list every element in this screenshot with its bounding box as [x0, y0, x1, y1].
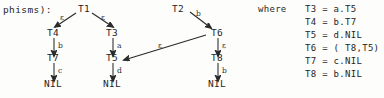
node-t4: T4: [47, 28, 59, 38]
edge-label-t1-t4: ε: [60, 14, 64, 22]
node-t8: T8: [211, 53, 223, 63]
node-t5: T5: [106, 53, 118, 63]
edge-label-t2-t6: b: [196, 10, 201, 18]
edge-label-t4-t7: b: [58, 42, 63, 50]
edge-t1-t4: [55, 13, 76, 27]
where-definition-t5: T5 = d.NIL: [305, 31, 362, 40]
node-nil-middle: NIL: [103, 79, 121, 89]
where-definition-t8: T8 = b.NIL: [305, 70, 362, 79]
where-definition-t7: T7 = c.NIL: [305, 57, 362, 66]
edge-label-t8-nil: b: [222, 67, 227, 75]
edge-label-t3-t5: a: [117, 42, 122, 50]
where-definition-t3: T3 = a.T5: [305, 5, 356, 14]
where-definition-t6: T6 = ( T8,T5): [305, 44, 379, 53]
node-nil-right: NIL: [208, 79, 226, 89]
edge-label-t5-nil: d: [117, 67, 122, 75]
figure-prefix-text: phisms):: [3, 5, 52, 15]
edge-label-t1-t3: ε: [101, 14, 105, 22]
edge-label-t6-t5: ε: [158, 42, 162, 50]
edge-t6-t5-epsilon: [124, 35, 206, 60]
node-t6: T6: [211, 28, 223, 38]
node-t3: T3: [106, 28, 118, 38]
node-t7: T7: [47, 53, 59, 63]
node-nil-left: NIL: [44, 79, 62, 89]
where-keyword: where: [258, 5, 287, 14]
where-definition-t4: T4 = b.T7: [305, 18, 356, 27]
node-t2: T2: [172, 4, 184, 14]
edge-label-t7-nil: c: [58, 67, 62, 75]
node-t1: T1: [78, 4, 90, 14]
edge-label-t6-t8: ε: [222, 42, 226, 50]
figure-canvas: phisms): T1 ε ε T4 T3 b T7 c NIL a T5 d …: [0, 0, 384, 98]
